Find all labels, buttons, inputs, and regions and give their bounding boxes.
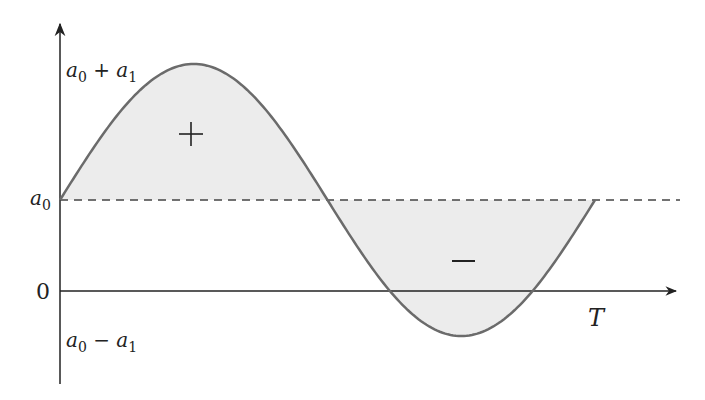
positive-region [60,64,328,200]
label-a0-minus-a1: a0 − a1 [66,328,137,355]
waveform-diagram: a0 + a1 a0 0 a0 − a1 T [0,0,705,400]
negative-region [328,200,596,336]
label-a0-plus-a1: a0 + a1 [66,58,137,85]
label-period-T: T [588,304,606,332]
label-a0: a0 [30,186,51,213]
label-zero: 0 [36,279,50,304]
